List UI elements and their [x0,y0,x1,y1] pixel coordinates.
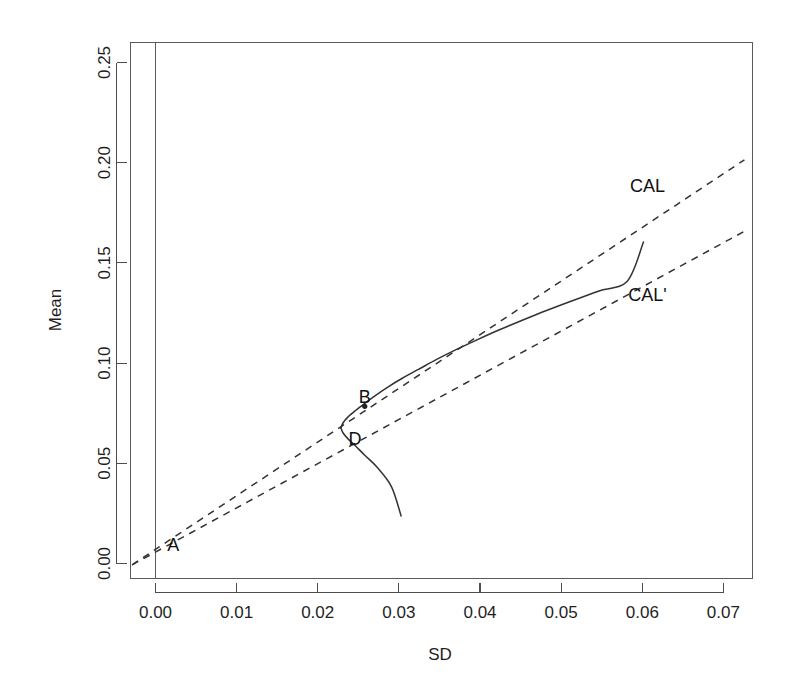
x-tick-label-2: 0.02 [301,603,334,622]
x-axis: 0.00 0.01 0.02 0.03 0.04 0.05 0.06 0.07 … [139,583,740,665]
annotation-label-a: A [167,535,179,555]
annotation-group: A B D CAL CAL' [167,176,666,555]
data-series-group [132,160,744,565]
y-tick-label-5: 0.25 [95,46,114,79]
annotation-label-cal-prime: CAL' [628,285,666,305]
y-tick-label-1: 0.05 [95,447,114,480]
cal-line [132,160,744,565]
y-tick-label-4: 0.20 [95,146,114,179]
y-axis-title: Mean [46,289,65,332]
x-axis-title: SD [428,645,452,664]
cal-prime-line [132,231,744,565]
chart-canvas: 0.00 0.05 0.10 0.15 0.20 0.25 Mean 0.00 … [0,0,796,694]
x-tick-label-0: 0.00 [139,603,172,622]
mean-sd-efficient-frontier-figure: 0.00 0.05 0.10 0.15 0.20 0.25 Mean 0.00 … [0,0,796,694]
x-tick-label-4: 0.04 [463,603,496,622]
x-tick-label-6: 0.06 [626,603,659,622]
annotation-label-d: D [349,429,362,449]
y-tick-label-0: 0.00 [95,547,114,580]
x-tick-label-7: 0.07 [707,603,740,622]
annotation-label-b: B [359,387,371,407]
y-tick-label-2: 0.10 [95,347,114,380]
y-tick-label-3: 0.15 [95,246,114,279]
annotation-label-cal: CAL [630,176,665,196]
x-tick-label-1: 0.01 [220,603,253,622]
efficient-frontier-upper [341,242,644,428]
x-tick-label-5: 0.05 [545,603,578,622]
plot-frame [131,43,753,579]
x-tick-label-3: 0.03 [382,603,415,622]
y-axis: 0.00 0.05 0.10 0.15 0.20 0.25 Mean [46,46,126,580]
